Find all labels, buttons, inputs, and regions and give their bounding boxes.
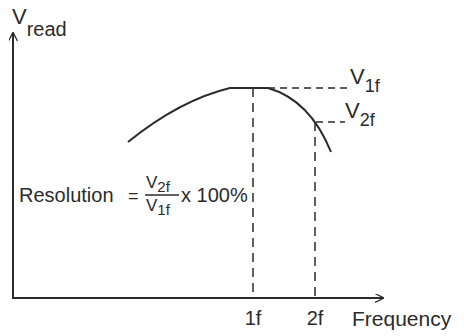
formula-denominator: V1f (146, 196, 171, 218)
tick-1f: 1f (245, 307, 262, 329)
v1f-label: V1f (350, 64, 381, 96)
v2f-label: V2f (345, 98, 376, 130)
response-curve (128, 88, 331, 152)
tick-2f: 2f (307, 307, 324, 329)
formula-rhs: x 100% (181, 184, 248, 206)
formula-numerator: V2f (146, 173, 171, 195)
formula-lhs: Resolution (19, 184, 114, 206)
resolution-formula: Resolution = V2f V1f x 100% (19, 173, 248, 218)
resolution-diagram: Vread V1f V2f 1f 2f Frequency Resolution… (0, 0, 464, 336)
x-axis-label: Frequency (352, 307, 452, 330)
y-axis-label: Vread (12, 4, 67, 40)
formula-equals: = (128, 186, 139, 206)
